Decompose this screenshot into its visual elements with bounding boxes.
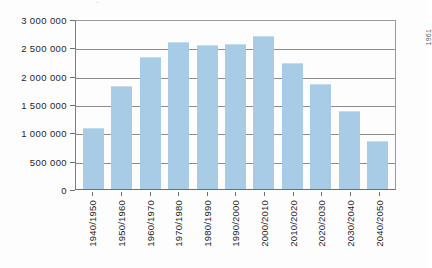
x-tick-mark	[321, 192, 322, 196]
bar	[168, 42, 189, 189]
bar	[225, 44, 246, 190]
top-tick-mark: ·	[96, 1, 100, 5]
x-tick-mark	[235, 192, 236, 196]
x-tick-slot: 2040/2050	[368, 192, 389, 266]
x-tick-label: 1970/1980	[173, 200, 184, 247]
y-tick-label: 500 000	[30, 156, 67, 167]
side-note-label: 1961	[425, 29, 432, 46]
y-tick-label: 3 000 000	[21, 15, 67, 26]
x-tick-mark	[92, 192, 93, 196]
x-tick-label: 2040/2050	[373, 200, 384, 247]
bar	[111, 86, 132, 189]
y-tick-label: 2 000 000	[21, 71, 67, 82]
x-axis: 1940/19501950/19601960/19701970/19801980…	[75, 192, 396, 266]
y-tick-mark	[70, 133, 75, 134]
y-tick-mark	[70, 105, 75, 106]
x-tick-label: 1960/1970	[144, 200, 155, 247]
x-tick-mark	[379, 192, 380, 196]
x-tick-mark	[150, 192, 151, 196]
bar	[339, 111, 360, 189]
x-tick-mark	[293, 192, 294, 196]
x-tick-label: 2020/2030	[316, 200, 327, 247]
x-tick-label: 2010/2020	[287, 200, 298, 247]
bar	[367, 141, 388, 189]
x-tick-slot: 1970/1980	[168, 192, 189, 266]
bar	[253, 36, 274, 189]
y-tick-label: 2 500 000	[21, 43, 67, 54]
x-tick-label: 1950/1960	[115, 200, 126, 247]
x-tick-label: 1990/2000	[230, 200, 241, 247]
x-tick-slot: 1960/1970	[139, 192, 160, 266]
x-tick-slot: 2020/2030	[311, 192, 332, 266]
y-tick-mark	[70, 20, 75, 21]
x-tick-slot: 1980/1990	[196, 192, 217, 266]
x-tick-mark	[264, 192, 265, 196]
x-tick-mark	[178, 192, 179, 196]
x-tick-mark	[207, 192, 208, 196]
x-tick-slot: 1940/1950	[82, 192, 103, 266]
y-tick-label: 1 500 000	[21, 100, 67, 111]
bar	[310, 84, 331, 189]
x-tick-slot: 1990/2000	[225, 192, 246, 266]
plot-area	[75, 20, 396, 190]
x-tick-label: 2000/2010	[259, 200, 270, 247]
x-tick-label: 1980/1990	[201, 200, 212, 247]
x-tick-slot: 1950/1960	[110, 192, 131, 266]
x-tick-label: 2030/2040	[344, 200, 355, 247]
y-tick-mark	[70, 77, 75, 78]
bar-series	[76, 21, 395, 189]
x-tick-mark	[121, 192, 122, 196]
x-tick-mark	[350, 192, 351, 196]
y-tick-mark	[70, 48, 75, 49]
bar	[140, 57, 161, 189]
bar	[83, 128, 104, 189]
x-tick-label: 1940/1950	[87, 200, 98, 247]
bar	[282, 63, 303, 189]
bar	[197, 45, 218, 189]
y-tick-label: 1 000 000	[21, 128, 67, 139]
y-tick-mark	[70, 190, 75, 191]
x-tick-slot: 2000/2010	[254, 192, 275, 266]
y-tick-label: 0	[61, 185, 67, 196]
x-tick-slot: 2010/2020	[282, 192, 303, 266]
y-tick-mark	[70, 162, 75, 163]
x-tick-slot: 2030/2040	[339, 192, 360, 266]
